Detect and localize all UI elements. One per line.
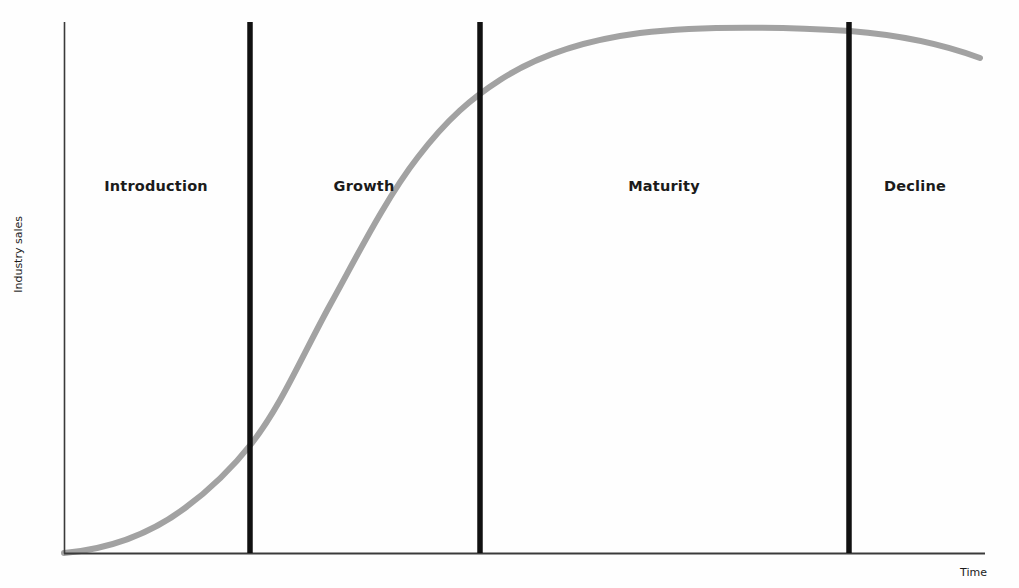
product-life-cycle-figure: Introduction Growth Maturity Decline Ind… (0, 0, 1019, 588)
x-axis-title: Time (960, 566, 987, 579)
industry-sales-curve (64, 28, 980, 553)
stage-label-introduction: Introduction (104, 178, 208, 194)
stage-label-decline: Decline (884, 178, 946, 194)
stage-label-growth: Growth (334, 178, 395, 194)
y-axis-title: Industry sales (12, 216, 25, 293)
stage-label-maturity: Maturity (628, 178, 700, 194)
life-cycle-plot-svg (0, 0, 1019, 588)
